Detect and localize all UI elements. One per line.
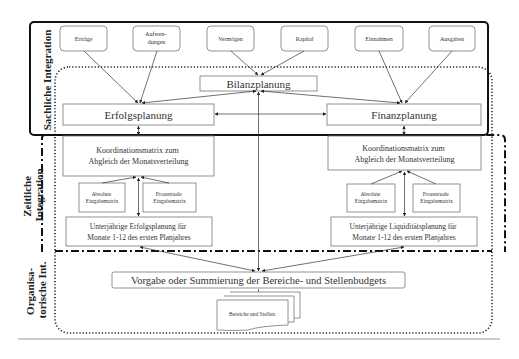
svg-text:Einnahmen: Einnahmen	[365, 36, 392, 42]
source-box-ausgaben: Ausgaben	[429, 26, 475, 51]
left-prozentuale-eingabematrix-box: Prozentuale Eingabematrix	[143, 183, 196, 212]
source-box-ertraege: Erträge	[60, 26, 107, 51]
svg-text:Erfolgsplanung: Erfolgsplanung	[105, 109, 173, 121]
svg-text:Erträge: Erträge	[75, 36, 93, 42]
bilanzplanung-box: Bilanzplanung	[200, 76, 317, 91]
right-koordinationsmatrix-box: Koordinationsmatrix zum Abgleich der Mon…	[328, 136, 481, 170]
finanzplanung-box: Finanzplanung	[327, 104, 481, 125]
svg-text:Bereiche und Stellen: Bereiche und Stellen	[229, 311, 275, 317]
svg-text:Ausgaben: Ausgaben	[440, 36, 464, 42]
source-box-kapital: Kapital	[281, 26, 328, 51]
left-koordinationsmatrix-box: Koordinationsmatrix zum Abgleich der Mon…	[63, 136, 214, 176]
source-box-aufwendungen: Aufwen- dungen	[133, 26, 180, 51]
bereiche-und-stellen-documents: Bereiche und Stellen	[217, 292, 300, 331]
section-label-sachliche: Sachliche Integration	[41, 30, 53, 131]
left-absolute-eingabematrix-box: Absolute Eingabematrix	[79, 183, 125, 212]
source-box-vermoegen: Vermögen	[207, 26, 254, 51]
right-absolute-eingabematrix-box: Absolute Eingabematrix	[347, 184, 395, 212]
right-prozentuale-eingabematrix-box: Prozentuale Eingabematrix	[413, 184, 460, 212]
svg-text:Vermögen: Vermögen	[218, 36, 243, 42]
right-unterjaehrige-liquiditaetsplanung-box: Unterjährige Liquiditätsplanung für Mona…	[331, 217, 477, 246]
svg-text:Prozentuale Eingabematri: Prozentuale Eingabematrix	[153, 191, 186, 204]
svg-text:Finanzplanung: Finanzplanung	[371, 109, 437, 121]
section-label-organisatorische: Organisa- torische Int.	[24, 261, 48, 318]
svg-text:Kapital: Kapital	[296, 36, 314, 42]
svg-text:Bilanzplanung: Bilanzplanung	[226, 78, 291, 90]
erfolgsplanung-box: Erfolgsplanung	[63, 104, 214, 125]
section-label-zeitliche: Zeitliche Integration	[21, 168, 45, 221]
diagram-canvas: Sachliche Integration Zeitliche Integrat…	[0, 0, 519, 359]
svg-text:Prozentuale Eingabematri: Prozentuale Eingabematrix	[420, 191, 453, 204]
left-unterjaehrige-erfolgsplanung-box: Unterjährige Erfolgsplanung für Monate 1…	[66, 217, 212, 246]
source-box-einnahmen: Einnahmen	[355, 26, 403, 51]
vorgabe-box: Vorgabe oder Summierung der Bereiche- un…	[112, 272, 405, 288]
svg-text:Vorgabe oder Summierung der Be: Vorgabe oder Summierung der Bereiche- un…	[131, 275, 386, 286]
